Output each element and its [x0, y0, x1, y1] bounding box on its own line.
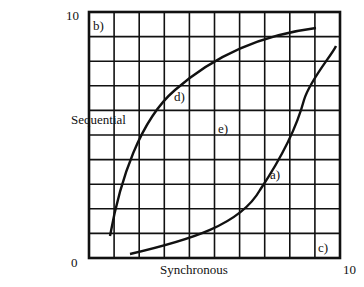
y-max-tick: 10: [66, 9, 79, 22]
label-c: c): [318, 241, 328, 254]
label-d: d): [174, 90, 185, 103]
label-b: b): [93, 19, 104, 32]
grid-chart: [0, 0, 364, 287]
curve-d: [110, 28, 316, 236]
curve-a: [130, 46, 336, 254]
grid-lines: [89, 12, 340, 258]
y-axis-label: Sequential: [71, 113, 126, 126]
origin-tick: 0: [71, 256, 78, 269]
x-axis-label: Synchronous: [160, 263, 228, 276]
x-max-tick: 10: [343, 263, 356, 276]
label-a: a): [270, 168, 280, 181]
label-e: e): [218, 122, 228, 135]
